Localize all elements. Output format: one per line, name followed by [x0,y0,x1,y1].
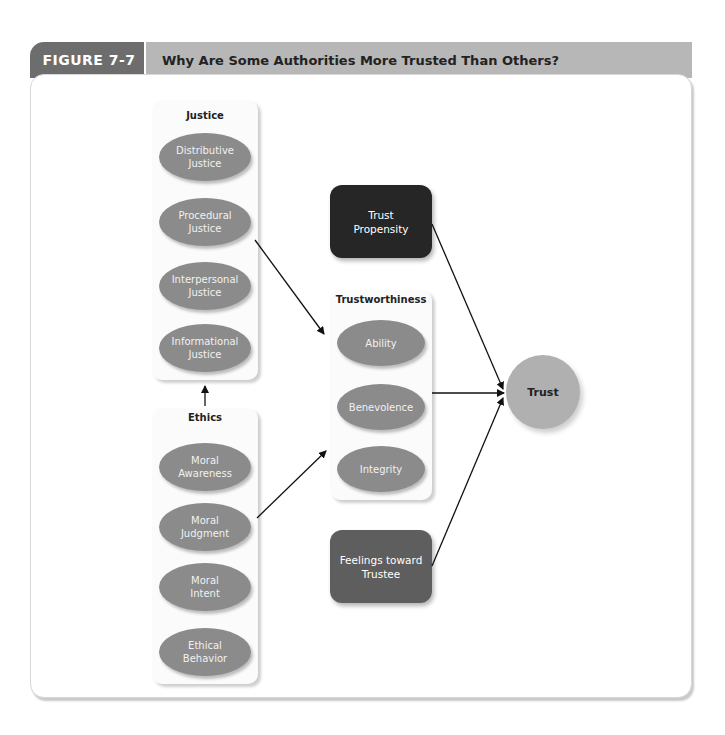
arrow-ethics-to-trustworthiness [257,451,326,518]
arrow-feelings-to-trust [432,398,503,566]
connector-arrows [0,0,725,735]
arrow-justice-to-trustworthiness [255,240,324,334]
arrow-propensity-to-trust [432,224,503,389]
